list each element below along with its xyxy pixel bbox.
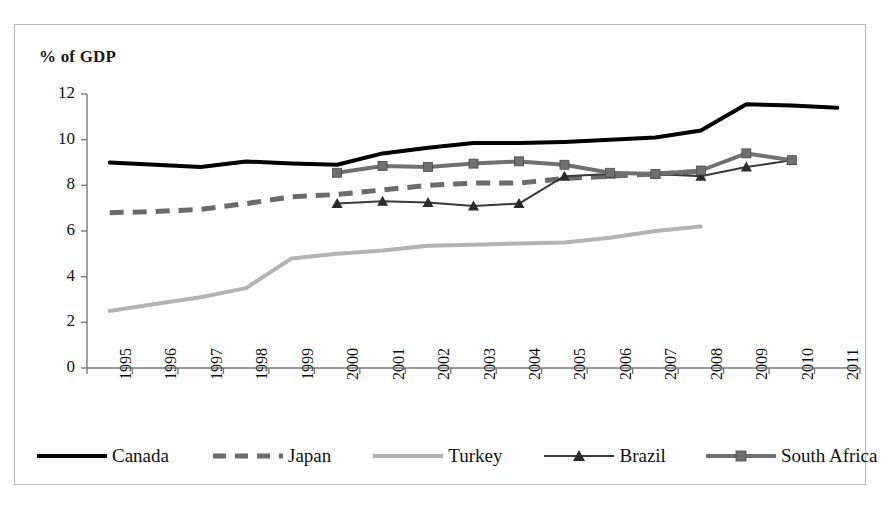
legend-swatch-canada <box>35 447 109 465</box>
y-tick-label: 8 <box>41 174 75 194</box>
x-tick-label: 2003 <box>481 348 499 380</box>
legend-item-brazil[interactable]: Brazil <box>542 445 665 467</box>
x-tick-label: 1997 <box>208 348 226 380</box>
series-line-turkey <box>110 226 701 311</box>
legend-label: Canada <box>112 445 169 467</box>
x-tick-label: 2008 <box>708 348 726 380</box>
series-marker-south-africa <box>605 168 614 177</box>
y-tick-label: 2 <box>41 311 75 331</box>
x-tick-label: 2006 <box>617 348 635 380</box>
series-marker-south-africa <box>333 168 342 177</box>
legend-swatch-japan <box>211 447 285 465</box>
line-chart-plot <box>15 25 867 486</box>
y-tick-label: 4 <box>41 266 75 286</box>
chart-frame: % of GDP 024681012 199519961997199819992… <box>14 24 866 485</box>
x-tick-label: 2004 <box>526 348 544 380</box>
y-tick-label: 12 <box>41 83 75 103</box>
y-tick-label: 10 <box>41 129 75 149</box>
y-tick-label: 6 <box>41 220 75 240</box>
x-tick-label: 1999 <box>299 348 317 380</box>
legend-item-turkey[interactable]: Turkey <box>371 445 502 467</box>
series-marker-south-africa <box>651 169 660 178</box>
legend-label: Japan <box>288 445 331 467</box>
legend-swatch-south-africa <box>704 447 778 465</box>
series-marker-south-africa <box>696 166 705 175</box>
x-tick-label: 1996 <box>162 348 180 380</box>
series-marker-south-africa <box>378 161 387 170</box>
chart-page: % of GDP 024681012 199519961997199819992… <box>0 0 896 505</box>
legend-item-japan[interactable]: Japan <box>211 445 331 467</box>
x-tick-label: 2009 <box>753 348 771 380</box>
x-tick-label: 2011 <box>844 349 862 380</box>
series-marker-south-africa <box>469 159 478 168</box>
x-tick-label: 1995 <box>117 348 135 380</box>
legend-swatch-brazil <box>542 447 616 465</box>
chart-legend: CanadaJapanTurkeyBrazilSouth Africa <box>35 439 847 473</box>
series-marker-south-africa <box>742 149 751 158</box>
x-tick-label: 2001 <box>390 348 408 380</box>
x-tick-label: 2000 <box>344 348 362 380</box>
x-tick-label: 2007 <box>662 348 680 380</box>
series-line-canada <box>110 104 838 167</box>
x-tick-label: 2005 <box>571 348 589 380</box>
x-tick-label: 2002 <box>435 348 453 380</box>
y-tick-label: 0 <box>41 357 75 377</box>
legend-item-south-africa[interactable]: South Africa <box>704 445 878 467</box>
x-tick-label: 1998 <box>253 348 271 380</box>
series-marker-south-africa <box>787 156 796 165</box>
series-marker-south-africa <box>514 157 523 166</box>
legend-label: South Africa <box>781 445 878 467</box>
x-tick-label: 2010 <box>799 348 817 380</box>
legend-label: Turkey <box>448 445 502 467</box>
series-marker-south-africa <box>424 163 433 172</box>
legend-label: Brazil <box>619 445 665 467</box>
legend-item-canada[interactable]: Canada <box>35 445 169 467</box>
legend-swatch-turkey <box>371 447 445 465</box>
series-marker-south-africa <box>560 160 569 169</box>
